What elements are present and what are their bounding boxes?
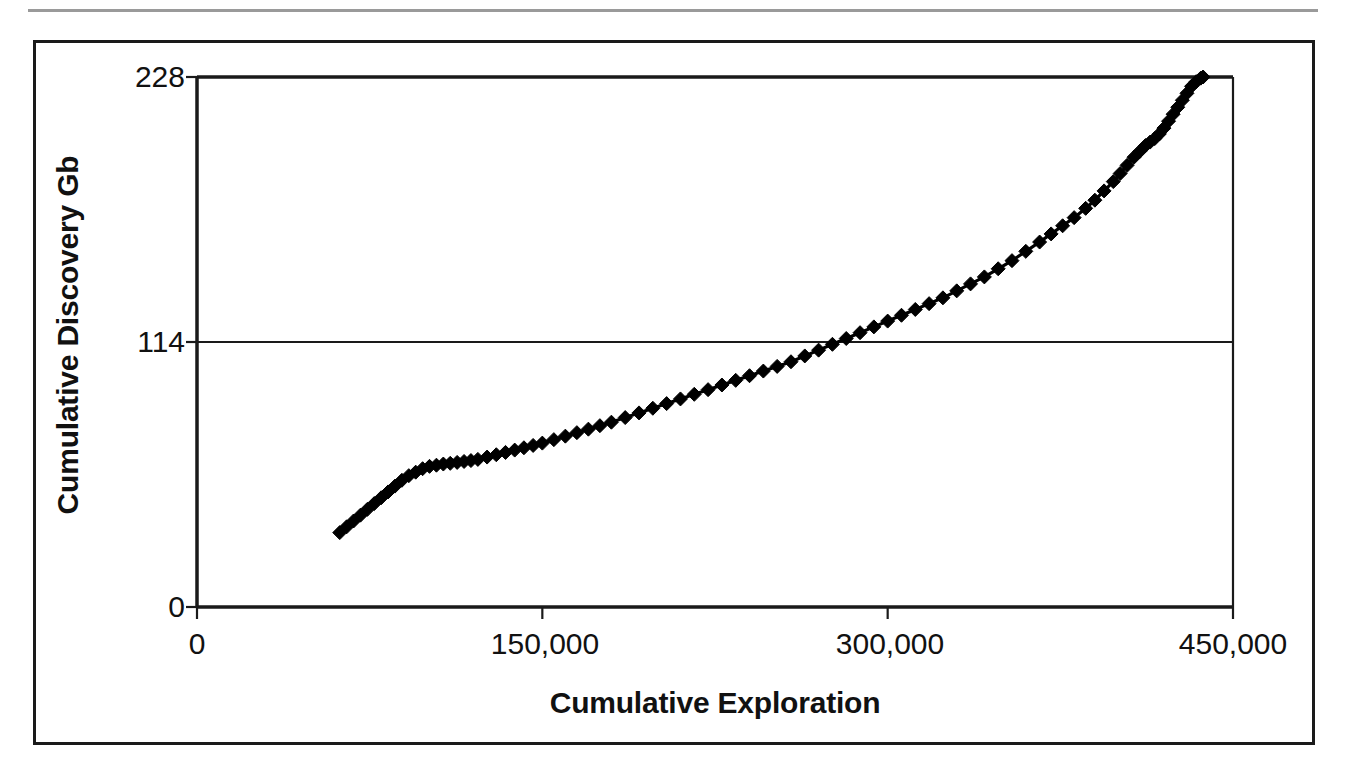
y-axis-tick-label-0: 0 — [55, 590, 185, 624]
figure-page: Cumulative Discovery Gb Cumulative Explo… — [0, 0, 1347, 779]
x-axis-tick-label-300000: 300,000 — [775, 627, 1005, 661]
top-divider-rule — [28, 9, 1318, 12]
x-axis-title: Cumulative Exploration — [197, 686, 1233, 720]
x-axis-tick-label-450000: 450,000 — [1118, 627, 1347, 661]
x-axis-tick-label-150000: 150,000 — [430, 627, 660, 661]
x-axis-tick-label-0: 0 — [147, 627, 247, 661]
y-axis-tick-label-228: 228 — [55, 60, 185, 94]
y-axis-tick-label-114: 114 — [55, 325, 185, 359]
